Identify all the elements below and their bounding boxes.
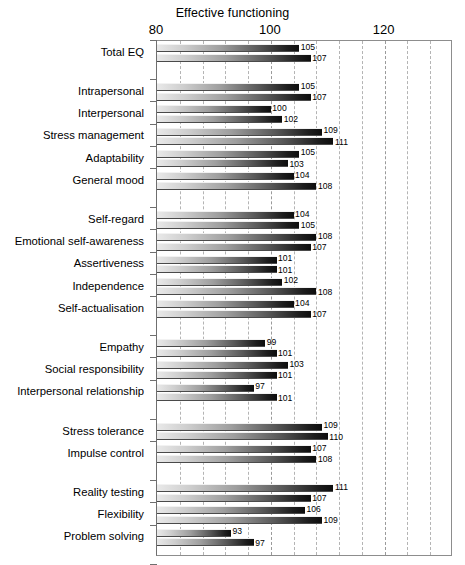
bar-lower — [157, 265, 277, 273]
category-labels: Total EQIntrapersonalInterpersonalStress… — [0, 40, 152, 556]
bar-upper — [157, 233, 316, 241]
bar-value-label: 93 — [233, 527, 243, 536]
axis-tick-mark — [150, 146, 157, 147]
bar-lower — [157, 137, 333, 145]
bar-value-label: 107 — [312, 243, 326, 252]
chart-title: Effective functioning — [0, 6, 465, 20]
category-label-6: Self-regard — [88, 213, 144, 225]
axis-tick-mark — [150, 357, 157, 358]
axis-tick-mark — [150, 274, 157, 275]
axis-tick-mark — [150, 252, 157, 253]
bar-lower — [157, 432, 328, 440]
bar-lower — [157, 243, 311, 251]
bar-value-label: 110 — [329, 433, 343, 442]
category-label-4: Adaptability — [86, 152, 144, 164]
category-label-13: Interpersonal relationship — [17, 385, 144, 397]
bar-value-label: 109 — [324, 126, 338, 135]
bar-lower — [157, 287, 316, 295]
bar-upper — [157, 256, 277, 264]
category-label-7: Emotional self-awareness — [15, 235, 144, 247]
gridline-116 — [362, 41, 363, 555]
bar-upper — [157, 423, 322, 431]
bar-upper — [157, 128, 322, 136]
bar-lower — [157, 494, 311, 502]
x-axis-tick-labels: 80100120 — [0, 22, 465, 38]
chart-root: Effective functioning 80100120 Total EQI… — [0, 0, 465, 565]
bar-value-label: 109 — [324, 421, 338, 430]
category-label-2: Interpersonal — [78, 107, 144, 119]
bar-value-label: 108 — [318, 455, 332, 464]
bar-upper — [157, 211, 294, 219]
category-label-12: Social responsibility — [45, 363, 144, 375]
bar-upper — [157, 83, 299, 91]
bar-upper — [157, 445, 311, 453]
bar-upper — [157, 361, 288, 369]
bar-lower — [157, 54, 311, 62]
bar-value-label: 107 — [312, 93, 326, 102]
bar-value-label: 111 — [335, 483, 348, 492]
bar-value-label: 104 — [295, 171, 309, 180]
bar-upper — [157, 384, 254, 392]
bar-upper — [157, 278, 282, 286]
category-label-3: Stress management — [43, 129, 144, 141]
category-label-1: Intrapersonal — [78, 85, 144, 97]
bar-lower — [157, 538, 254, 546]
axis-tick-mark — [150, 229, 157, 230]
axis-tick-mark — [150, 40, 157, 41]
bar-value-label: 102 — [284, 276, 298, 285]
bar-value-label: 108 — [318, 232, 332, 241]
bar-lower — [157, 393, 277, 401]
bar-upper — [157, 484, 333, 492]
bar-lower — [157, 516, 322, 524]
bar-value-label: 107 — [312, 54, 326, 63]
bar-lower — [157, 349, 277, 357]
axis-tick-mark — [150, 480, 157, 481]
bar-lower — [157, 182, 316, 190]
bar-value-label: 105 — [301, 43, 315, 52]
bar-upper — [157, 529, 231, 537]
bar-value-label: 102 — [284, 115, 298, 124]
bar-value-label: 104 — [295, 210, 309, 219]
category-label-11: Empathy — [99, 341, 144, 353]
bar-upper — [157, 105, 271, 113]
gridline-108 — [316, 41, 317, 555]
bar-lower — [157, 455, 316, 463]
axis-tick-mark — [150, 296, 157, 297]
bar-value-label: 99 — [267, 338, 277, 347]
category-label-16: Reality testing — [73, 486, 144, 498]
axis-tick-mark — [150, 168, 157, 169]
bar-value-label: 107 — [312, 310, 326, 319]
bar-value-label: 100 — [272, 104, 286, 113]
bar-value-label: 101 — [278, 349, 292, 358]
bar-lower — [157, 310, 311, 318]
bar-value-label: 107 — [312, 494, 326, 503]
category-label-5: General mood — [72, 174, 144, 186]
bar-lower — [157, 371, 277, 379]
category-label-10: Self-actualisation — [58, 302, 144, 314]
axis-tick-mark — [150, 380, 157, 381]
bar-lower — [157, 221, 299, 229]
gridline-120 — [385, 41, 386, 555]
axis-tick-mark — [150, 419, 157, 420]
x-tick-label-100: 100 — [259, 22, 281, 37]
plot-area: 1051071051071001021091111051031041081041… — [156, 40, 452, 556]
gridline-112 — [339, 41, 340, 555]
bar-value-label: 108 — [318, 182, 332, 191]
bar-value-label: 105 — [301, 82, 315, 91]
bar-value-label: 106 — [307, 505, 321, 514]
axis-tick-mark — [150, 124, 157, 125]
bar-upper — [157, 44, 299, 52]
x-tick-label-120: 120 — [373, 22, 395, 37]
bar-upper — [157, 150, 299, 158]
axis-tick-mark — [150, 79, 157, 80]
category-label-14: Stress tolerance — [62, 425, 144, 437]
bar-value-label: 103 — [289, 360, 303, 369]
bar-value-label: 111 — [335, 138, 348, 147]
bar-value-label: 101 — [278, 266, 292, 275]
bar-value-label: 101 — [278, 394, 292, 403]
bar-value-label: 103 — [289, 160, 303, 169]
bar-value-label: 105 — [301, 221, 315, 230]
bar-value-label: 97 — [255, 382, 265, 391]
bar-lower — [157, 115, 282, 123]
category-label-15: Impulse control — [67, 447, 144, 459]
